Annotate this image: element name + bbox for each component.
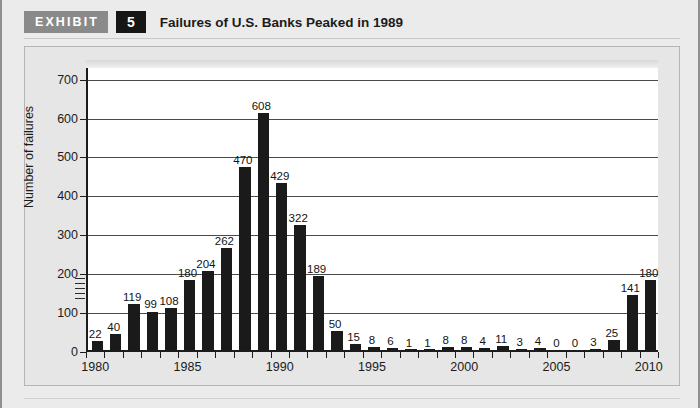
bar-value-label: 180 (178, 267, 197, 279)
x-axis-tick-label-1990: 1990 (266, 360, 294, 374)
y-axis-tick-label-400: 400 (42, 189, 78, 203)
bar-value-label: 4 (480, 335, 486, 347)
y-axis-tick-label-700: 700 (42, 73, 78, 87)
x-axis-tick-mark (418, 352, 419, 358)
y-axis-minor-mark (75, 298, 85, 299)
bar (147, 312, 158, 351)
bar-value-label: 322 (289, 212, 308, 224)
x-axis-tick-mark (160, 352, 161, 358)
bar (165, 308, 176, 350)
bar-value-label: 180 (639, 267, 658, 279)
bar (221, 248, 232, 350)
bar-value-label: 3 (590, 336, 596, 348)
y-axis-minor-mark (75, 293, 85, 294)
exhibit-number-badge: 5 (116, 11, 146, 33)
x-axis-tick-label-2000: 2000 (450, 360, 478, 374)
x-axis-tick-mark (271, 352, 272, 358)
bar-value-label: 11 (495, 333, 507, 345)
bar (405, 349, 416, 351)
bar-value-label: 8 (369, 334, 375, 346)
x-axis-tick-mark (252, 352, 253, 358)
x-axis-tick-mark (86, 352, 87, 358)
x-axis-tick-mark (197, 352, 198, 358)
bar (313, 276, 324, 350)
x-axis-tick-label-1985: 1985 (174, 360, 202, 374)
bar-value-label: 608 (252, 100, 271, 112)
bar-value-label: 1 (406, 337, 412, 349)
bar (627, 295, 638, 350)
bar-value-label: 50 (329, 318, 342, 330)
bar-value-label: 429 (270, 170, 289, 182)
bar-value-label: 0 (572, 337, 578, 349)
bar (350, 344, 361, 350)
bar (590, 349, 601, 351)
x-axis-tick-mark (141, 352, 142, 358)
bar-value-label: 1 (424, 337, 430, 349)
bar-value-label: 0 (553, 337, 559, 349)
x-axis-tick-label-2010: 2010 (635, 360, 663, 374)
y-axis-tick-label-100: 100 (42, 306, 78, 320)
x-axis-tick-mark (123, 352, 124, 358)
x-axis-tick-mark (547, 352, 548, 358)
x-axis-tick-mark (215, 352, 216, 358)
bar (608, 340, 619, 350)
y-axis-tick-label-0: 0 (42, 345, 78, 359)
x-axis-tick-mark (104, 352, 105, 358)
x-axis-tick-mark (178, 352, 179, 358)
x-axis-tick-mark (381, 352, 382, 358)
bar-value-label: 40 (107, 321, 120, 333)
gridline-600 (88, 119, 658, 120)
bar (128, 304, 139, 350)
bar-value-label: 3 (516, 336, 522, 348)
bar (294, 225, 305, 350)
bar-value-label: 99 (144, 298, 157, 310)
bar (479, 348, 490, 350)
bar (110, 334, 121, 350)
gridline-300 (88, 235, 658, 236)
x-axis-tick-mark (584, 352, 585, 358)
y-axis-tick-label-600: 600 (42, 112, 78, 126)
bar (368, 347, 379, 350)
bar-value-label: 204 (196, 258, 215, 270)
x-axis-tick-mark (473, 352, 474, 358)
y-axis-tick-label-200: 200 (42, 267, 78, 281)
exhibit-title: Failures of U.S. Banks Peaked in 1989 (160, 15, 403, 30)
bar (645, 280, 656, 350)
y-axis-minor-mark (75, 283, 85, 284)
bar (276, 183, 287, 350)
x-axis-tick-mark (400, 352, 401, 358)
bar-value-label: 262 (215, 235, 234, 247)
x-axis-tick-label-1995: 1995 (358, 360, 386, 374)
x-axis-tick-mark (455, 352, 456, 358)
bar (387, 348, 398, 350)
x-axis-tick-label-2005: 2005 (543, 360, 571, 374)
x-axis-tick-mark (307, 352, 308, 358)
bar-value-label: 6 (387, 335, 393, 347)
y-axis-minor-mark (75, 288, 85, 289)
y-axis-minor-mark (75, 278, 85, 279)
page-frame: EXHIBIT 5 Failures of U.S. Banks Peaked … (0, 0, 700, 408)
bar (184, 280, 195, 350)
x-axis-tick-mark (234, 352, 235, 358)
header-divider (24, 38, 680, 39)
x-axis: 1980198519901995200020052010 (86, 352, 658, 382)
bar (497, 346, 508, 350)
bar (258, 113, 269, 350)
y-axis-tick-label-300: 300 (42, 228, 78, 242)
bar-value-label: 8 (443, 334, 449, 346)
gridline-700 (88, 80, 658, 81)
plot-area (86, 68, 658, 352)
x-axis-tick-mark (344, 352, 345, 358)
bar (331, 331, 342, 350)
bar-value-label: 470 (233, 154, 252, 166)
x-axis-tick-mark (510, 352, 511, 358)
bar-value-label: 141 (621, 282, 640, 294)
gridline-200 (88, 274, 658, 275)
bar-value-label: 108 (159, 295, 178, 307)
bar-value-label: 119 (123, 291, 141, 303)
x-axis-tick-mark (363, 352, 364, 358)
x-axis-tick-mark (289, 352, 290, 358)
bar (461, 347, 472, 350)
y-axis-tick-label-500: 500 (42, 150, 78, 164)
bar (92, 341, 103, 350)
